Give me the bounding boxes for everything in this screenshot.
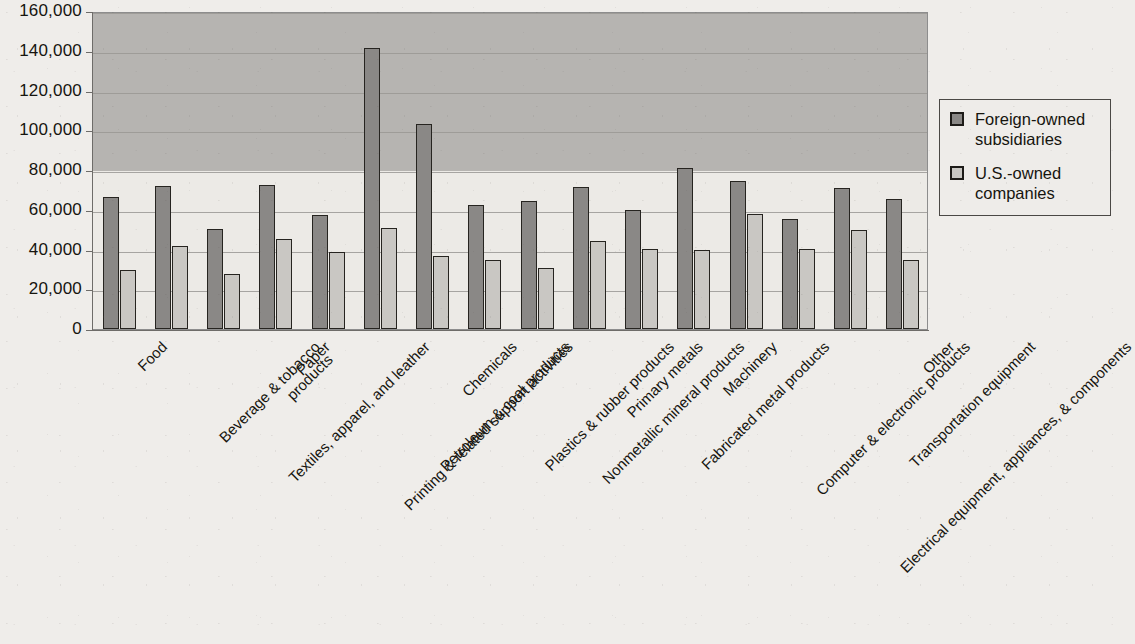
bar: [468, 205, 484, 329]
bar: [677, 168, 693, 329]
bar: [747, 214, 763, 329]
y-axis-label: 80,000: [0, 160, 82, 180]
bar: [224, 274, 240, 329]
legend: Foreign-owned subsidiaries U.S.-owned co…: [939, 99, 1111, 216]
bar: [381, 228, 397, 329]
legend-swatch-icon-us: [950, 166, 964, 180]
bar: [259, 185, 275, 329]
legend-item-foreign-owned-subsidiaries: Foreign-owned subsidiaries: [950, 109, 1102, 149]
bar: [103, 197, 119, 329]
y-axis-tick: [86, 330, 92, 331]
x-axis-category-label: Food: [134, 338, 171, 375]
gridline: [93, 132, 927, 133]
bar: [312, 215, 328, 329]
y-axis-line: [92, 12, 93, 331]
bar: [834, 188, 850, 329]
bar: [433, 256, 449, 329]
gridline: [93, 93, 927, 94]
legend-item-us-owned-companies: U.S.-owned companies: [950, 163, 1102, 203]
y-axis-label: 0: [0, 319, 82, 339]
y-axis-label: 160,000: [0, 1, 82, 21]
gridline: [93, 53, 927, 54]
y-axis-label: 40,000: [0, 240, 82, 260]
bar: [120, 270, 136, 329]
legend-label-us: U.S.-owned companies: [975, 163, 1061, 203]
y-axis-label: 140,000: [0, 41, 82, 61]
y-axis-tick: [86, 52, 92, 53]
y-axis-tick: [86, 171, 92, 172]
y-axis-tick: [86, 290, 92, 291]
y-axis-tick: [86, 92, 92, 93]
bar: [851, 230, 867, 329]
bar: [329, 252, 345, 329]
bar: [155, 186, 171, 329]
bar: [364, 48, 380, 329]
y-axis-label: 20,000: [0, 279, 82, 299]
y-axis-label: 120,000: [0, 81, 82, 101]
bar: [886, 199, 902, 329]
bar: [538, 268, 554, 329]
legend-swatch-icon-foreign: [950, 112, 964, 126]
gridline: [93, 13, 927, 14]
bar: [573, 187, 589, 329]
bar: [903, 260, 919, 329]
y-axis-tick: [86, 131, 92, 132]
gridline: [93, 172, 927, 173]
bar: [782, 219, 798, 329]
legend-label-foreign: Foreign-owned subsidiaries: [975, 109, 1085, 149]
bar: [416, 124, 432, 329]
y-axis-label: 100,000: [0, 120, 82, 140]
y-axis-tick: [86, 12, 92, 13]
plot-area: [92, 12, 928, 330]
x-axis-line: [92, 330, 929, 331]
bar: [799, 249, 815, 329]
bar: [521, 201, 537, 329]
bar: [276, 239, 292, 329]
bar: [730, 181, 746, 329]
bar: [625, 210, 641, 329]
bar: [485, 260, 501, 329]
bar: [642, 249, 658, 329]
bar: [694, 250, 710, 330]
y-axis-tick: [86, 251, 92, 252]
y-axis-tick: [86, 211, 92, 212]
gridline: [93, 212, 927, 213]
bar: [207, 229, 223, 329]
y-axis-label: 60,000: [0, 200, 82, 220]
bar: [172, 246, 188, 329]
bar: [590, 241, 606, 329]
